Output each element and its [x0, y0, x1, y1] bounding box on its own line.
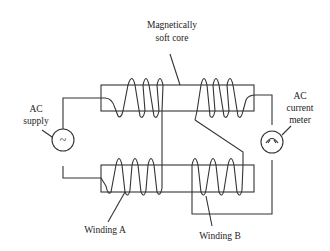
- winding-b-leader: [206, 196, 212, 226]
- core-leader-line: [170, 54, 180, 85]
- link-wire-b: [195, 120, 243, 165]
- transformer-diagram: ~ Magnetically soft core AC supply: [0, 0, 330, 251]
- core-label-line1: Magnetically: [147, 20, 197, 30]
- winding-a-leader: [108, 192, 125, 222]
- core-label-line2: soft core: [156, 33, 189, 43]
- supply-label-line1: AC: [29, 104, 42, 114]
- ac-ammeter-icon: [261, 126, 291, 153]
- sine-symbol: ~: [60, 133, 67, 147]
- meter-label-line3: meter: [289, 115, 311, 125]
- ac-supply-icon: ~: [42, 129, 74, 151]
- winding-a-label: Winding A: [84, 225, 126, 235]
- winding-b-label: Winding B: [199, 231, 241, 241]
- meter-label-line1: AC: [293, 91, 306, 101]
- supply-label-line2: supply: [23, 116, 49, 126]
- meter-label-line2: current: [287, 103, 314, 113]
